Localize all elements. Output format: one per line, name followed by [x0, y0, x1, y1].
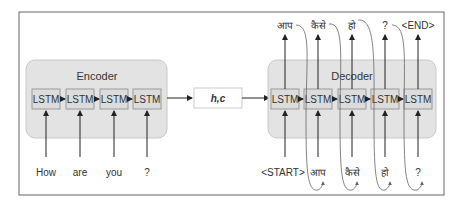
encoder-input-word: are	[73, 167, 88, 178]
decoder-output-word: कैसे	[311, 20, 326, 31]
decoder-cell-label: LSTM	[405, 94, 432, 105]
decoder-input-word: ?	[415, 167, 421, 178]
decoder-cell-label: LSTM	[372, 94, 399, 105]
decoder-cells: LSTM LSTM LSTM LSTM LSTM	[271, 89, 432, 109]
encoder-cell-label: LSTM	[134, 94, 161, 105]
decoder-cell-label: LSTM	[305, 94, 332, 105]
decoder-input-word: आप	[310, 167, 326, 178]
decoder-output-word: ?	[382, 20, 388, 31]
encoder-title: Encoder	[77, 70, 118, 82]
context-label: h,c	[211, 93, 226, 104]
decoder-output-word: हो	[348, 20, 356, 31]
seq2seq-diagram: Encoder LSTM LSTM LSTM LSTM How are you …	[0, 0, 462, 206]
encoder-cell-label: LSTM	[33, 94, 60, 105]
encoder-cell-label: LSTM	[101, 94, 128, 105]
encoder-input-word: How	[36, 167, 57, 178]
encoder-cell-label: LSTM	[67, 94, 94, 105]
decoder-input-word: <START>	[261, 167, 305, 178]
encoder-input-word: ?	[144, 167, 150, 178]
decoder-input-word: कैसे	[345, 167, 360, 178]
decoder-cell-label: LSTM	[272, 94, 299, 105]
decoder-output-word: आप	[277, 20, 293, 31]
encoder-input-word: you	[106, 167, 122, 178]
decoder-cell-label: LSTM	[339, 94, 366, 105]
decoder-output-word: <END>	[402, 20, 435, 31]
decoder-input-word: हो	[381, 167, 389, 178]
